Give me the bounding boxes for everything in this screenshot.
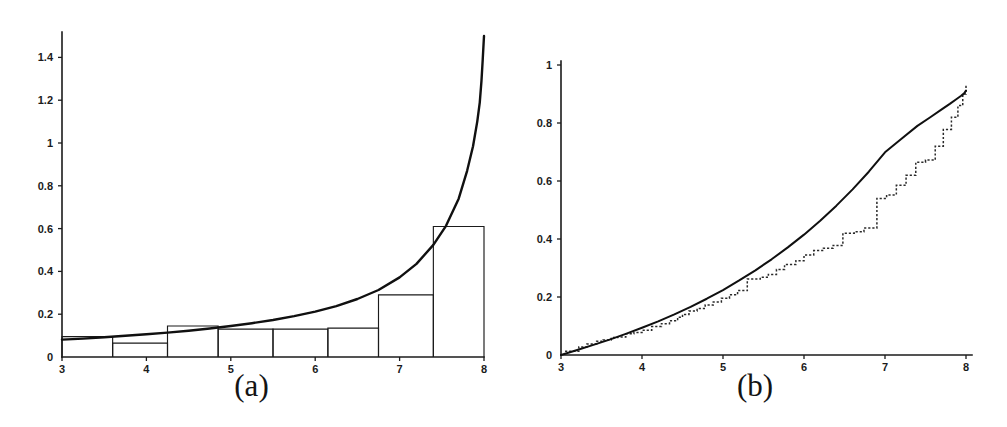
panel-b: 00.20.40.60.81345678 (b) — [503, 0, 1007, 427]
panel-a-y-tick-label: 0.4 — [38, 265, 54, 277]
panel-a-plot: 00.20.40.60.811.21.4345678 — [0, 0, 503, 427]
panel-b-y-tick-label: 0.6 — [537, 175, 552, 187]
panel-a-y-tick-label: 0.6 — [38, 223, 53, 235]
panel-a-y-tick-label: 1.4 — [38, 51, 54, 63]
panel-a-caption: (a) — [0, 368, 503, 404]
panel-b-plot: 00.20.40.60.81345678 — [503, 0, 1007, 427]
panel-a: 00.20.40.60.811.21.4345678 (a) — [0, 0, 503, 427]
histogram-bar — [273, 329, 328, 357]
histogram-bar — [113, 343, 168, 357]
panel-b-y-tick-label: 0.2 — [537, 291, 552, 303]
panel-b-cdf-curve — [561, 91, 966, 355]
panel-b-ecdf-step — [565, 85, 966, 351]
panel-b-y-tick-label: 1 — [546, 59, 552, 71]
histogram-bar — [433, 226, 484, 357]
histogram-bar — [328, 328, 379, 357]
panel-b-y-tick-label: 0 — [546, 349, 552, 361]
histogram-bar — [218, 329, 273, 357]
panel-a-histogram — [62, 226, 484, 357]
figure-container: 00.20.40.60.811.21.4345678 (a) 00.20.40.… — [0, 0, 1007, 427]
histogram-bar — [379, 295, 434, 357]
panel-a-y-tick-label: 1 — [47, 137, 53, 149]
panel-a-y-tick-label: 0.2 — [38, 308, 53, 320]
panel-a-y-tick-label: 1.2 — [38, 94, 53, 106]
panel-b-caption: (b) — [503, 368, 1007, 404]
panel-a-density-curve — [62, 36, 484, 340]
panel-b-y-tick-label: 0.8 — [537, 117, 552, 129]
panel-a-y-tick-label: 0 — [47, 351, 53, 363]
panel-a-y-tick-label: 0.8 — [38, 180, 53, 192]
panel-b-y-tick-label: 0.4 — [537, 233, 553, 245]
